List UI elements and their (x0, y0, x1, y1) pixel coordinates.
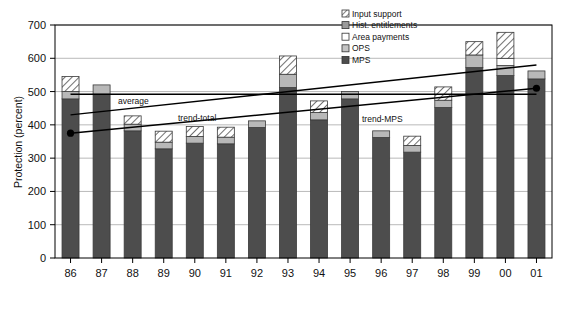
bar-segment-ops (217, 137, 234, 144)
x-tick-label: 00 (499, 267, 511, 279)
bar-segment-input (62, 77, 79, 92)
bar-segment-mps (466, 68, 483, 258)
x-tick-label: 98 (437, 267, 449, 279)
bar-segment-ops (279, 74, 296, 87)
trend-marker-trend-MPS-start (67, 130, 74, 137)
bar-group (497, 32, 514, 258)
bar-segment-ops (435, 100, 452, 107)
bar-segment-mps (404, 152, 421, 258)
x-tick-label: 90 (189, 267, 201, 279)
x-tick-label: 96 (375, 267, 387, 279)
bar-group (186, 127, 203, 258)
x-tick-label: 87 (95, 267, 107, 279)
bar-segment-mps (186, 143, 203, 258)
bar-group (373, 131, 390, 258)
x-tick-label: 93 (282, 267, 294, 279)
bar-segment-mps (497, 76, 514, 258)
bar-segment-ops (186, 137, 203, 144)
bar-segment-ops (373, 131, 390, 138)
bar-group (217, 127, 234, 258)
bar-segment-ops (311, 113, 328, 120)
bar-segment-mps (248, 128, 265, 258)
bar-segment-area (497, 58, 514, 65)
bar-segment-mps (311, 120, 328, 258)
y-tick-label: 100 (28, 219, 46, 231)
bar-segment-mps (155, 149, 172, 258)
bar-segment-mps (373, 138, 390, 258)
bar-segment-ops (155, 142, 172, 149)
bar-segment-input (404, 136, 421, 145)
bar-segment-ops (93, 85, 110, 94)
bar-segment-mps (124, 131, 141, 258)
bar-segment-input (279, 56, 296, 74)
bar-segment-input (497, 32, 514, 58)
x-tick-label: 94 (313, 267, 325, 279)
bar-group (279, 56, 296, 258)
bar-segment-input (124, 116, 141, 124)
x-tick-label: 01 (530, 267, 542, 279)
bar-segment-mps (342, 99, 359, 258)
y-tick-label: 600 (28, 52, 46, 64)
bar-segment-mps (528, 79, 545, 258)
annotation-label-trend-MPS: trend-MPS (362, 114, 403, 124)
legend-swatch-dark-gray-swatch (342, 56, 349, 63)
bar-segment-ops (404, 145, 421, 152)
bar-segment-input (155, 131, 172, 142)
legend-swatch-white-swatch (342, 33, 349, 40)
x-axis-ticks: 86878889909192939495969798990001 (64, 258, 542, 279)
x-tick-label: 86 (64, 267, 76, 279)
legend-swatch-mid-gray-swatch (342, 22, 349, 29)
bar-group (155, 131, 172, 258)
y-tick-label: 400 (28, 119, 46, 131)
bar-segment-mps (435, 108, 452, 258)
legend-label: OPS (352, 43, 370, 53)
bar-segment-input (186, 127, 203, 137)
y-tick-label: 200 (28, 185, 46, 197)
y-tick-label: 0 (40, 252, 46, 264)
bar-segment-input (311, 101, 328, 113)
legend-swatch-hatch-swatch (342, 10, 349, 17)
x-tick-label: 97 (406, 267, 418, 279)
y-axis-title: Protection (percent) (12, 96, 24, 188)
y-axis-title-text: Protection (percent) (12, 96, 24, 188)
bar-group (311, 101, 328, 258)
legend-label: Hist. entitlements (352, 20, 417, 30)
legend-label: Input support (352, 9, 402, 19)
bar-segment-ops (342, 92, 359, 99)
bar-segment-input (466, 42, 483, 55)
bar-group (528, 71, 545, 258)
bar-group (248, 121, 265, 258)
bar-segment-mps (93, 94, 110, 258)
x-tick-label: 89 (158, 267, 170, 279)
bar-segment-ops (528, 71, 545, 79)
bar-segment-mps (62, 99, 79, 258)
x-tick-label: 99 (468, 267, 480, 279)
annotation-label-average: average (118, 96, 149, 106)
legend-swatch-light-gray-swatch (342, 45, 349, 52)
annotation-label-trend-total: trend-total (178, 113, 216, 123)
trend-marker-trend-MPS-end (533, 85, 540, 92)
x-tick-label: 91 (220, 267, 232, 279)
x-tick-label: 92 (251, 267, 263, 279)
bar-segment-mps (217, 144, 234, 258)
legend-label: MPS (352, 55, 371, 65)
protection-stacked-bar-chart: 0100200300400500600700 86878889909192939… (0, 0, 567, 309)
bar-group (466, 42, 483, 258)
bar-segment-ops (248, 121, 265, 128)
x-tick-label: 88 (127, 267, 139, 279)
bar-group (124, 116, 141, 258)
bar-group (342, 92, 359, 258)
y-tick-label: 300 (28, 152, 46, 164)
y-tick-label: 500 (28, 86, 46, 98)
bar-group (404, 136, 421, 258)
bar-group (435, 87, 452, 258)
y-tick-label: 700 (28, 19, 46, 31)
bar-segment-ops (62, 92, 79, 99)
bar-group (62, 77, 79, 258)
bar-segment-input (217, 127, 234, 137)
legend-label: Area payments (352, 32, 409, 42)
y-axis-ticks: 0100200300400500600700 (28, 19, 55, 264)
bar-segment-ops (466, 55, 483, 68)
chart-container: 0100200300400500600700 86878889909192939… (0, 0, 567, 309)
x-tick-label: 95 (344, 267, 356, 279)
